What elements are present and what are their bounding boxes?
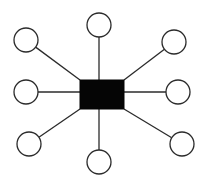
node-circle-top-left [14, 28, 38, 52]
connector-line-bottom-right [124, 109, 172, 138]
star-diagram [0, 0, 205, 185]
node-circle-top-right [162, 30, 186, 54]
node-circle-right [166, 80, 190, 104]
node-circle-bottom [87, 150, 111, 174]
node-circle-left [14, 80, 38, 104]
central-hub-rectangle [80, 80, 124, 109]
connector-line-top-right [124, 49, 164, 80]
connector-line-bottom-left [39, 109, 80, 137]
connector-line-top-left [36, 47, 80, 80]
node-circle-top [87, 13, 111, 37]
node-circle-bottom-left [17, 132, 41, 156]
node-circle-bottom-right [170, 132, 194, 156]
